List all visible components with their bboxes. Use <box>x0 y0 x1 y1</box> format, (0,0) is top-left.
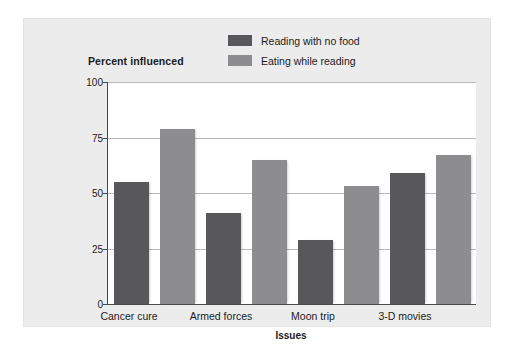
bar-1-2 <box>344 186 379 304</box>
bar-1-1 <box>252 160 287 304</box>
y-axis-tick-label: 75 <box>92 132 103 143</box>
y-axis-tick-labels: 0255075100 <box>79 82 103 304</box>
bar-0-2 <box>298 240 333 304</box>
legend-item: Reading with no food <box>228 32 360 49</box>
y-axis-title: Percent influenced <box>88 55 184 67</box>
y-axis-tick-label: 25 <box>92 243 103 254</box>
x-axis-tick-label: Armed forces <box>190 310 252 322</box>
y-axis-tick-mark <box>103 193 107 194</box>
x-axis-title: Issues <box>275 330 306 341</box>
y-axis-tick-label: 50 <box>92 188 103 199</box>
y-axis-tick-mark <box>103 304 107 305</box>
bar-0-1 <box>206 213 241 304</box>
legend-item: Eating while reading <box>228 52 360 69</box>
bar-1-3 <box>436 155 471 304</box>
x-axis-tick-label: Moon trip <box>291 310 335 322</box>
y-axis-tick-mark <box>103 82 107 83</box>
y-axis-tick-label: 100 <box>86 77 103 88</box>
x-axis-tick-label: 3-D movies <box>378 310 431 322</box>
legend-label: Reading with no food <box>261 35 360 47</box>
chart-legend: Reading with no food Eating while readin… <box>228 32 360 72</box>
y-axis-tick-mark <box>103 249 107 250</box>
bar-0-3 <box>390 173 425 304</box>
legend-swatch-light-icon <box>228 55 252 66</box>
y-axis-tick-mark <box>103 138 107 139</box>
bar-1-0 <box>160 129 195 304</box>
legend-swatch-dark-icon <box>228 35 252 46</box>
x-axis-tick-label: Cancer cure <box>100 310 157 322</box>
gridline <box>108 82 476 83</box>
chart-page: Percent influenced 0255075100 Reading wi… <box>0 0 515 346</box>
bar-0-0 <box>114 182 149 304</box>
chart-panel: Percent influenced 0255075100 Reading wi… <box>24 19 490 326</box>
plot-area <box>107 82 476 305</box>
legend-label: Eating while reading <box>261 55 356 67</box>
